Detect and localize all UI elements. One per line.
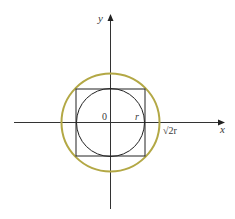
inner-radius-label: r [135, 111, 139, 122]
outer-radius-label: √2r [163, 125, 177, 136]
diagram-root: y x 0 r √2r [0, 0, 235, 219]
y-axis-label: y [97, 12, 103, 24]
x-axis-label: x [219, 123, 225, 135]
diagram-canvas: y x 0 r √2r [0, 0, 235, 219]
origin-label: 0 [102, 111, 107, 122]
